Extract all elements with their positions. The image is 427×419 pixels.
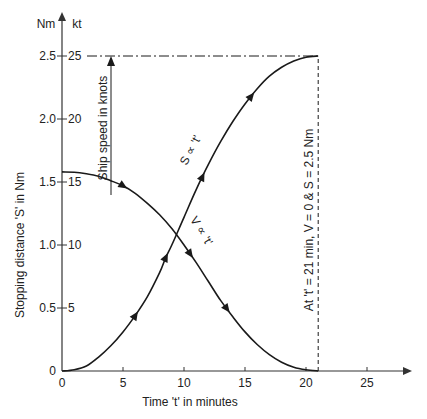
y-tick-label-right: 15 <box>68 175 82 189</box>
y-axis-label: Stopping distance 'S' in Nm <box>13 172 27 318</box>
y-tick-label-right: 20 <box>68 112 82 126</box>
x-tick-label: 10 <box>177 376 191 390</box>
stopping-distance-chart: 051015202500.551.0101.5152.0202.525 Nm k… <box>0 0 427 419</box>
reference-lines <box>87 56 318 371</box>
y-tick-label-left: 1.0 <box>39 238 56 252</box>
direction-arrow-icon <box>160 251 171 263</box>
axis-ticks: 051015202500.551.0101.5152.0202.525 <box>39 49 374 390</box>
x-tick-label: 25 <box>360 376 374 390</box>
x-axis-label: Time 't' in minutes <box>142 395 238 409</box>
y-tick-label-left: 2.0 <box>39 112 56 126</box>
y-tick-label-right: 5 <box>68 301 75 315</box>
end-condition-annotation: At 't' = 21 min, V = 0 & S = 2.5 Nm <box>302 129 316 311</box>
y-tick-label-right: 25 <box>68 49 82 63</box>
y-tick-label-left: 0 <box>49 364 56 378</box>
x-axis-arrow-icon <box>403 367 412 375</box>
y-axis-arrow-icon <box>58 12 66 21</box>
y-unit-right: kt <box>72 17 82 31</box>
direction-arrow-icon <box>117 180 129 192</box>
s-curve-label: S ∝ 't' <box>177 133 204 167</box>
x-tick-label: 15 <box>238 376 252 390</box>
v-curve-label: V ∝ 't' <box>187 214 216 248</box>
y-tick-label-left: 2.5 <box>39 49 56 63</box>
y-unit-left: Nm <box>37 17 56 31</box>
y-tick-label-left: 0.5 <box>39 301 56 315</box>
y-tick-label-right: 10 <box>68 238 82 252</box>
y-tick-label-left: 1.5 <box>39 175 56 189</box>
x-tick-label: 20 <box>299 376 313 390</box>
direction-arrow-icon <box>130 309 142 321</box>
direction-arrow-icon <box>185 248 197 260</box>
ship-speed-arrow-icon <box>107 56 115 66</box>
x-tick-label: 0 <box>59 376 66 390</box>
x-tick-label: 5 <box>120 376 127 390</box>
ship-speed-label: Ship speed in knots <box>96 76 110 181</box>
direction-arrow-icon <box>197 171 208 183</box>
